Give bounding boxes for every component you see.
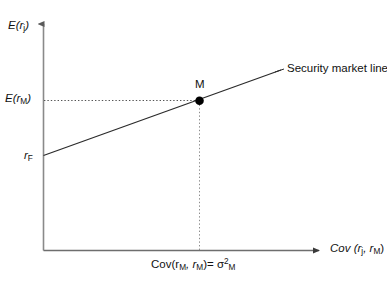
x-axis-title-subscript-j: j — [361, 247, 363, 256]
security-market-line-figure: E(rj) E(rM) rF M Security market line Co… — [0, 0, 387, 285]
sml-annotation-leader — [275, 69, 284, 72]
x-tick-covmm-subscript-1: M — [179, 263, 186, 272]
chart-canvas — [0, 0, 387, 285]
y-tick-rf-subscript: F — [28, 154, 33, 163]
x-tick-covmm-equals-sigma: )= σ — [203, 258, 224, 270]
y-axis-title: E(rj) — [8, 20, 29, 32]
y-axis-title-paren: ) — [25, 19, 29, 31]
y-tick-erm-paren: ) — [27, 92, 31, 104]
x-tick-covmm-middle: , r — [186, 258, 196, 270]
x-axis-title-paren: ) — [380, 242, 384, 254]
y-tick-erm-main: E(r — [5, 92, 20, 104]
x-tick-covmm-subscript-2: M — [196, 263, 203, 272]
y-tick-erm-subscript: M — [20, 97, 27, 106]
y-axis-title-main: E(r — [8, 19, 23, 31]
x-tick-covmm-main: Cov(r — [151, 258, 179, 270]
x-axis-title-middle: , r — [363, 242, 373, 254]
market-portfolio-label: M — [195, 79, 205, 91]
security-market-line-annotation: Security market line — [287, 63, 387, 75]
x-tick-covmm-superscript-2: 2 — [224, 257, 229, 266]
x-axis-title-subscript-m: M — [373, 247, 380, 256]
x-tick-covmm-subscript-3: M — [229, 263, 236, 272]
y-axis-title-subscript: j — [23, 24, 25, 33]
y-tick-label-risk-free-rate: rF — [24, 150, 33, 162]
market-portfolio-point — [195, 97, 204, 106]
x-axis-title-main: Cov (r — [330, 242, 361, 254]
y-tick-label-expected-return-market: E(rM) — [5, 93, 31, 105]
security-market-line — [44, 70, 282, 156]
x-axis-title: Cov (rj, rM) — [330, 243, 384, 255]
x-tick-label-market-variance: Cov(rM, rM)= σ2M — [151, 259, 235, 271]
